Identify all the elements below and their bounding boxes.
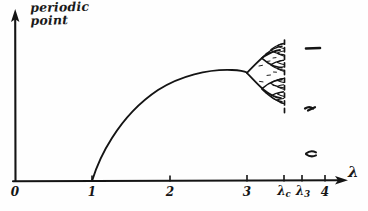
x-axis-line — [13, 180, 340, 181]
speckle-4 — [266, 93, 270, 94]
chaos-mark-1 — [306, 48, 320, 49]
lambda-3-subscript: 3 — [304, 189, 310, 199]
x-tick-label-1: 1 — [88, 185, 96, 199]
x-tick-label-lambda-3: λ3 — [296, 184, 310, 199]
x-tick-label-lambda-c: λc — [277, 184, 291, 199]
y-axis-label: periodic point — [30, 0, 90, 27]
lambda-c-subscript: c — [286, 189, 291, 199]
speckle-2 — [267, 61, 271, 62]
x-tick-label-4: 4 — [321, 185, 329, 199]
x-axis-label: λ — [348, 163, 359, 181]
x-tick-label-3: 3 — [243, 185, 251, 199]
x-tick-label-2: 2 — [166, 185, 174, 199]
bifurcation-diagram — [0, 0, 368, 211]
speckle-9 — [260, 81, 264, 82]
x-tick-label-0: 0 — [11, 185, 19, 199]
